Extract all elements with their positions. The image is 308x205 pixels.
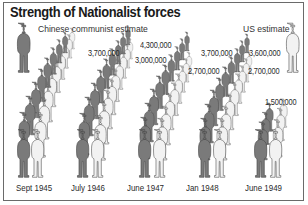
group-june-1947 [138,32,191,177]
legend-communist-figure-icon [17,23,30,72]
value-label-june-1947-us: 2,700,000 [188,66,219,76]
value-label-june-1949: 1,500,000 [265,97,296,107]
legend-us-label: US estimate [243,23,290,34]
category-label-june-1947: June 1947 [127,183,164,193]
value-label-jan-1948-us: 2,700,000 [248,66,279,76]
category-label-july-1946: July 1946 [71,183,105,193]
value-label-sept-1945: 3,700,000 [88,48,119,58]
category-label-jan-1948: Jan 1948 [186,183,219,193]
category-label-sept-1945: Sept 1945 [16,183,52,193]
group-june-1949 [254,99,287,177]
value-label-jan-1948-communist: 3,600,000 [249,48,280,58]
value-label-july-1946-communist: 4,300,000 [140,40,171,50]
legend-communist-label: Chinese communist estimate [38,23,148,34]
value-label-june-1947-communist: 3,700,000 [201,48,232,58]
category-label-june-1949: June 1949 [245,183,282,193]
value-label-july-1946-us: 3,000,000 [135,55,166,65]
